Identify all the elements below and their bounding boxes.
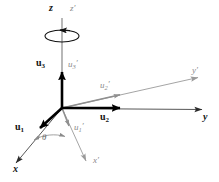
prime-mark-u3: ′ <box>76 58 78 68</box>
vector-u1-prime-line <box>62 108 69 126</box>
vector-label-u2-subscript: 2 <box>106 116 110 124</box>
axis-label-y: y <box>203 112 207 122</box>
angle-label-theta: θ <box>42 133 46 142</box>
axis-label-x: x <box>13 164 18 174</box>
vector-label-u2: u2 <box>100 112 109 124</box>
vector-label-u3-prime: u3′ <box>68 59 78 70</box>
vector-label-u3: u3 <box>36 58 45 70</box>
coordinate-rotation-figure: z z′ x y y′ x′ u3 u3′ u1 u1′ u2 u2′ θ <box>0 0 219 182</box>
vector-label-u2-prime: u2′ <box>100 80 110 91</box>
axis-label-y-prime: y′ <box>192 66 198 75</box>
axis-x-line <box>16 108 62 163</box>
angle-theta-arc-start-head <box>34 137 40 141</box>
figure-canvas <box>0 0 219 182</box>
axis-label-z-prime: z′ <box>70 4 75 13</box>
vector-label-u3-subscript: 3 <box>42 62 46 70</box>
prime-mark-u1: ′ <box>82 121 84 131</box>
prime-mark-u2: ′ <box>108 79 110 89</box>
axis-label-z: z <box>49 3 53 13</box>
vector-u2-prime-line <box>62 95 120 108</box>
vector-u1-line <box>40 108 62 128</box>
vector-label-u1-subscript: 1 <box>21 126 25 134</box>
vector-label-u1: u1 <box>15 122 24 134</box>
axis-label-x-prime: x′ <box>93 156 99 165</box>
vector-label-u1-prime: u1′ <box>74 122 84 133</box>
